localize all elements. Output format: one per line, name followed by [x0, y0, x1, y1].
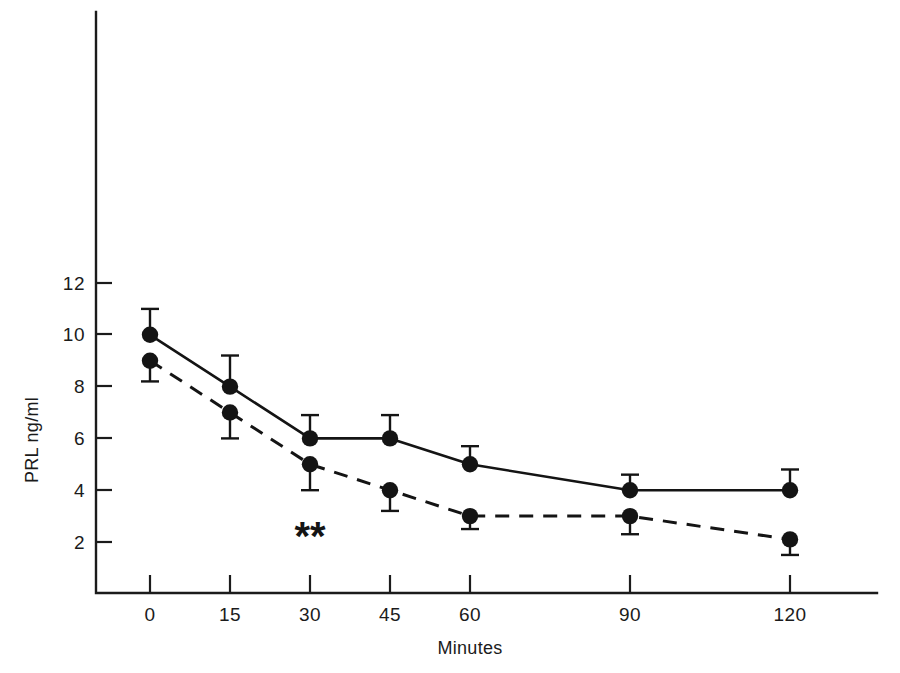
data-point-marker — [222, 378, 238, 394]
data-point-marker — [382, 430, 398, 446]
data-point-marker — [622, 508, 638, 524]
data-series-layer — [141, 309, 799, 555]
data-point-marker — [462, 456, 478, 472]
data-point-marker — [302, 430, 318, 446]
data-point-marker — [622, 482, 638, 498]
y-axis-title: PRL ng/ml — [22, 397, 42, 483]
x-tick-label-0: 0 — [144, 604, 155, 625]
solid-line-series — [141, 309, 799, 499]
data-point-marker — [462, 508, 478, 524]
x-axis-title: Minutes — [437, 638, 502, 658]
y-tick-label-2: 2 — [74, 532, 85, 553]
data-point-marker — [782, 482, 798, 498]
y-tick-label-12: 12 — [63, 273, 85, 294]
x-tick-label-60: 60 — [459, 604, 481, 625]
figure-container: 2 4 6 8 10 12 0 15 30 45 60 90 120 Minut… — [0, 0, 900, 673]
prl-time-course-chart: 2 4 6 8 10 12 0 15 30 45 60 90 120 Minut… — [0, 0, 900, 673]
data-point-marker — [302, 456, 318, 472]
x-tick-label-30: 30 — [299, 604, 321, 625]
data-point-marker — [782, 531, 798, 547]
y-tick-label-10: 10 — [63, 324, 85, 345]
caption-strip — [0, 663, 900, 673]
significance-asterisks: ** — [294, 514, 326, 558]
x-tick-label-15: 15 — [219, 604, 241, 625]
y-tick-label-6: 6 — [74, 428, 85, 449]
x-tick-label-90: 90 — [619, 604, 641, 625]
data-point-marker — [142, 327, 158, 343]
data-point-marker — [382, 482, 398, 498]
y-tick-label-4: 4 — [74, 480, 85, 501]
axis-lines — [96, 12, 877, 593]
y-tick-label-8: 8 — [74, 376, 85, 397]
data-point-marker — [222, 404, 238, 420]
x-tick-label-45: 45 — [379, 604, 401, 625]
y-tick-marks — [96, 283, 112, 542]
data-point-marker — [142, 353, 158, 369]
x-tick-marks — [150, 575, 790, 593]
x-tick-label-120: 120 — [773, 604, 806, 625]
